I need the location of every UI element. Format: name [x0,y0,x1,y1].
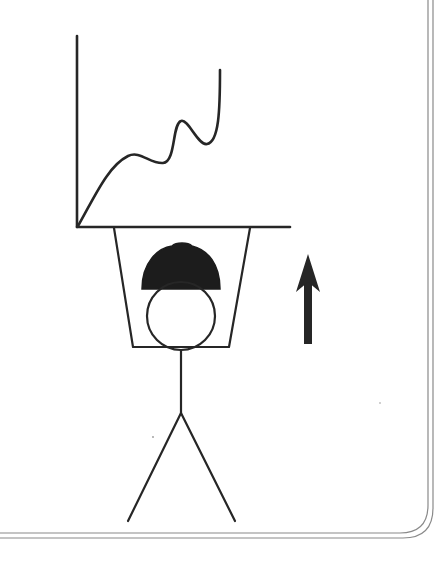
line-chart [77,36,290,227]
speck [152,436,154,438]
speck [379,402,381,404]
illustration-canvas [0,0,439,572]
head [147,282,215,350]
trend-line [78,70,220,226]
left-leg [128,413,181,521]
up-arrow-icon [296,254,320,344]
right-leg [181,413,235,521]
